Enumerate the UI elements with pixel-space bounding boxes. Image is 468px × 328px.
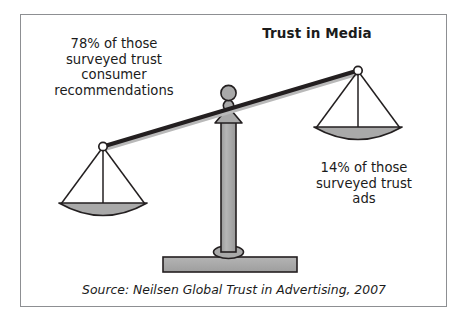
scale-pan-right bbox=[314, 66, 402, 139]
source-caption: Source: Neilsen Global Trust in Advertis… bbox=[48, 283, 420, 298]
scale-column bbox=[221, 121, 236, 252]
figure-root: Trust in Media 78% of those surveyed tru… bbox=[0, 0, 468, 328]
scale-pan-left bbox=[59, 142, 147, 215]
callout-right-14-percent: 14% of those surveyed trust ads bbox=[286, 160, 442, 207]
callout-left-78-percent: 78% of those surveyed trust consumer rec… bbox=[22, 36, 206, 98]
figure-title: Trust in Media bbox=[236, 26, 398, 42]
